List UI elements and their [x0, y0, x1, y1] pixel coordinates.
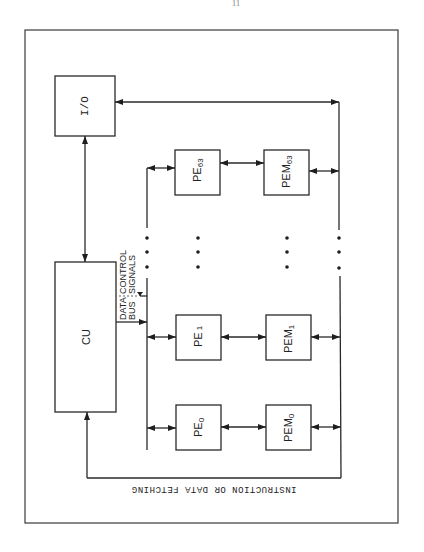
ellipsis-dot: [145, 236, 149, 240]
pe-bus: [145, 168, 149, 450]
pe63-block: PE63: [175, 150, 220, 195]
pe0-sub: 0: [197, 417, 206, 422]
arrowhead-right-icon: [139, 319, 147, 325]
arrowhead-right-icon: [331, 99, 339, 105]
pe63-label: PE: [191, 167, 203, 182]
simd-diagram: 11 I/O CU DATA BUS: [0, 0, 424, 552]
bus-label: BUS: [127, 301, 137, 320]
pe1-block: PE1: [176, 315, 221, 360]
arrowhead-up-icon: [84, 412, 90, 420]
pem0-block: PEM0: [266, 405, 311, 450]
pem0-sub: 0: [287, 413, 296, 418]
arrowhead-left-icon: [115, 99, 123, 105]
memory-bus: [337, 102, 341, 478]
pe0-label: PE: [192, 422, 204, 437]
cu-block: CU: [55, 262, 116, 412]
signals-label: SIGNALS: [127, 255, 137, 294]
ellipsis-columns: [196, 236, 289, 269]
ellipsis-dot: [145, 250, 149, 254]
pem-bus-links: [309, 168, 341, 430]
arrowhead-down-icon: [82, 254, 88, 262]
cu-label: CU: [80, 329, 92, 345]
pem1-label: PEM: [282, 329, 294, 353]
arrowhead-up-icon: [82, 136, 88, 144]
io-label: I/O: [79, 96, 91, 116]
pe1-label: PE: [192, 332, 204, 347]
pem63-sub: 63: [285, 155, 294, 164]
bus-labels: DATA BUS CONTROL SIGNALS: [118, 250, 138, 320]
bus-pe-links: [147, 165, 176, 431]
pem63-block: PEM63: [264, 150, 309, 195]
io-block: I/O: [55, 76, 115, 136]
pe63-sub: 63: [196, 158, 205, 167]
io-memory-link: [115, 99, 339, 105]
cu-io-link: [82, 136, 88, 262]
pe1-sub: 1: [195, 325, 204, 330]
pem1-sub: 1: [287, 324, 296, 329]
pem1-block: PEM1: [266, 315, 311, 360]
pe0-block: PE0: [176, 405, 221, 450]
pe-pem-links: [220, 160, 266, 430]
pem63-label: PEM: [280, 164, 292, 188]
fetch-label: INSTRUCTION OR DATA FETCHING: [131, 484, 296, 494]
page-number: 11: [232, 0, 241, 8]
pem0-label: PEM: [282, 418, 294, 442]
ellipsis-dot: [145, 265, 149, 269]
